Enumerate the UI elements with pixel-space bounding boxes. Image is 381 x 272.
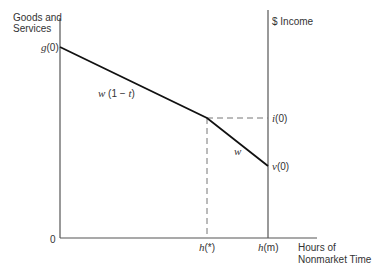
- g0-label: g(0): [41, 41, 59, 53]
- i0-label: i(0): [272, 112, 287, 124]
- y-left-label-line2: Services: [13, 23, 51, 34]
- v0-label: v(0): [272, 160, 289, 172]
- lower-slope-label: w: [234, 145, 242, 157]
- origin-label: 0: [50, 234, 56, 245]
- hm-label: h(m): [258, 241, 279, 253]
- y-left-label-line1: Goods and: [13, 12, 62, 23]
- y-right-label: $ Income: [272, 16, 314, 27]
- hstar-label: h(*): [199, 241, 215, 253]
- x-label-line2: Nonmarket Time: [298, 254, 372, 265]
- upper-slope-label: w (1 − t): [98, 87, 135, 99]
- budget-constraint-diagram: Goods and Services g(0) 0 $ Income i(0) …: [0, 0, 381, 272]
- x-label-line1: Hours of: [298, 242, 336, 253]
